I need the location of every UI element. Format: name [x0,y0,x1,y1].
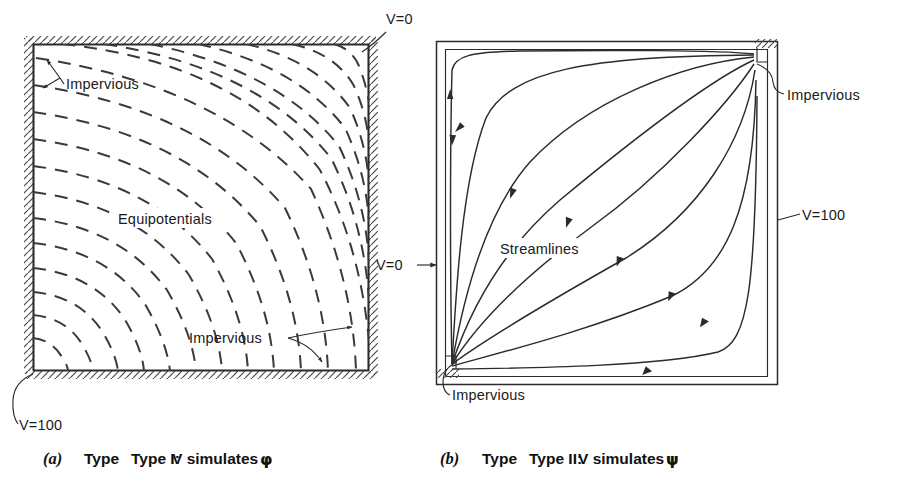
figure-board: Impervious Impervious Equipotentials V=0… [0,0,897,483]
impervious-label-a2: Impervious [189,330,262,346]
wall-right-hatch [369,38,378,374]
corner-notch-tr [757,48,768,62]
equipotentials-label: Equipotentials [118,211,212,227]
caption-text-a: V simulates [172,450,258,467]
equipotential-line [334,44,369,102]
figure-a-caption: (a) Type Type I: V simulates φ [43,449,273,469]
figure-b-interior-label: Streamlines [498,238,602,258]
figure-a-impervious-top-left: Impervious [43,60,139,92]
caption-symbol-b: ψ [666,450,679,469]
figure-b-group: Streamlines Impervious Impervious V=0 V=… [0,0,860,469]
figure-a-equipotentials [33,44,369,371]
impervious-label-a1: Impervious [66,76,139,92]
equipotential-line [33,292,118,371]
leader-to-bottom-wall [288,338,322,362]
wall-left-hatch [24,38,33,374]
v-zero-label-b: V=0 [376,257,403,273]
streamlines-label: Streamlines [500,241,579,257]
figure-a-group: Impervious Impervious Equipotentials V=0… [13,11,413,469]
streamline [452,70,755,364]
corner-hatch-bottom-left [437,369,459,378]
leader-to-left-wall [43,78,60,88]
leader-to-top-wall [47,60,60,78]
impervious-label-b1: Impervious [787,87,860,103]
equipotential-line [246,44,369,182]
equipotential-line [198,44,369,222]
figure-b-inner-boundary [445,49,768,377]
figure-a-v-zero: V=0 [362,11,413,52]
figure-b-caption: (b) Type Type II: V simulates ψ [440,449,679,469]
caption-type-label-a: Type [84,450,119,467]
figure-b-v-zero: V=0 [376,257,436,273]
leader-stem [60,78,64,84]
equipotential-line [33,338,68,371]
flow-arrow [449,135,457,146]
flow-arrow [698,316,710,327]
equipotential-line [33,218,196,371]
v-zero-label-a: V=0 [386,11,413,27]
flow-arrow [455,122,466,135]
v-hundred-label-b: V=100 [802,207,845,223]
figure-b-impervious-top-right: Impervious [757,64,860,103]
leader-impervious-tr [757,64,784,94]
figure-a-interior-label: Equipotentials [116,208,244,228]
caption-index-b: (b) [440,449,459,468]
caption-type-b: Type II: [529,450,582,467]
figure-b-v-hundred: V=100 [778,207,845,223]
v-hundred-label-a: V=100 [19,417,62,433]
streamline [452,96,757,369]
leader-v-hundred-b [778,214,800,220]
figure-b-boundary [436,41,778,385]
caption-type-label-b: Type [482,450,517,467]
flow-arrow-left-wall [447,89,453,99]
leader-to-right-wall [288,327,352,338]
streamline [451,50,755,364]
equipotential-line [33,315,93,371]
streamline [452,55,754,364]
impervious-label-b2: Impervious [452,387,525,403]
corner-hatch-top-right [755,39,777,48]
streamline [452,80,756,366]
streamline [452,57,754,364]
figure-canvas: Impervious Impervious Equipotentials V=0… [0,0,897,483]
flow-arrow [563,215,574,227]
flow-arrow [642,366,653,375]
figure-b-streamlines [451,50,758,369]
streamline [452,64,754,364]
equipotential-line [33,243,170,371]
equipotential-line [292,44,369,142]
caption-text-b: V simulates [578,450,664,467]
figure-b-flow-arrows [0,0,710,375]
caption-index-a: (a) [43,449,62,468]
flow-arrow [665,289,677,301]
figure-a-v-hundred: V=100 [13,374,62,433]
figure-b-impervious-corners [437,39,777,378]
caption-symbol-a: φ [260,450,273,469]
